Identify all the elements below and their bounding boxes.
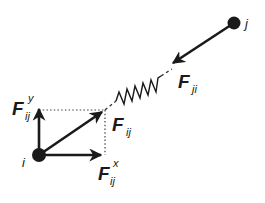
force-arrow-fji — [173, 23, 234, 63]
svg-text:ij: ij — [110, 175, 115, 187]
node-j — [228, 17, 241, 30]
svg-text:F: F — [12, 98, 25, 119]
node-i-label: i — [22, 155, 26, 170]
svg-text:ji: ji — [190, 83, 197, 95]
spring-icon — [116, 76, 161, 104]
label-fji: F ji — [178, 71, 197, 95]
svg-text:F: F — [112, 114, 125, 135]
svg-text:y: y — [27, 92, 35, 104]
svg-text:ij: ij — [25, 110, 30, 122]
svg-text:F: F — [178, 71, 191, 92]
node-j-label: j — [243, 16, 249, 31]
label-fij-y: F y ij — [12, 92, 35, 122]
node-i — [32, 148, 46, 162]
label-fij-x: F x ij — [98, 157, 119, 187]
svg-text:ij: ij — [126, 126, 131, 138]
force-diagram: i j F ji F ij F y ij F x ij — [0, 0, 265, 203]
force-arrow-fij — [39, 112, 102, 155]
label-fij: F ij — [112, 114, 131, 138]
connection-line — [105, 69, 172, 110]
svg-text:x: x — [112, 157, 119, 169]
